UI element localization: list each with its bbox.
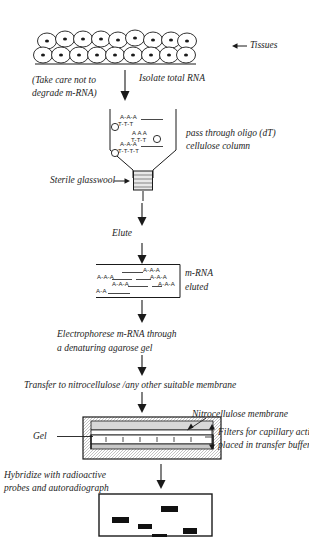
mrna-eluted-line-1: m-RNA (185, 267, 213, 279)
column-strand-2-polya: A A A (132, 130, 147, 136)
electrophorese-line-1: Electrophorese m-RNA through (57, 328, 177, 340)
tissues-label: Tissues (250, 39, 277, 51)
column-strand-3-polya: A-A-A (120, 141, 137, 147)
flow-arrow-6-icon (136, 392, 148, 414)
autoradiograph-band (138, 524, 152, 529)
column-strand-1-oligodt: T-T-T (118, 121, 133, 127)
glasswool-label: Sterile glasswool (50, 174, 115, 186)
hybridize-line-1: Hybridize with radioactive (4, 469, 106, 481)
flow-arrow-7-icon (155, 464, 167, 490)
column-bead-2 (152, 134, 162, 144)
column-label-line-2: cellulose column (186, 140, 250, 152)
column-strand-3-tail (141, 145, 163, 148)
flow-arrow-3-icon (136, 243, 148, 265)
flow-arrow-1-icon (119, 70, 131, 102)
eluted-strand-3: A-A-A (150, 274, 167, 280)
glasswool-plug (132, 170, 154, 192)
elute-label: Elute (112, 227, 132, 239)
column-strand-1-polya: A-A-A (120, 114, 137, 120)
hybridize-line-2: probes and autoradiograph (4, 482, 109, 494)
gel-label: Gel (33, 430, 47, 442)
eluted-strand-2: A-A-A (97, 274, 114, 280)
mrna-eluted-line-2: eluted (185, 281, 208, 293)
column-strand-1-tail (141, 118, 163, 121)
eluted-strand-5: A-A-A (158, 281, 175, 287)
tissues-arrow-icon (232, 41, 248, 51)
eluted-strand-1: A-A-A (143, 267, 160, 273)
autoradiograph-band (152, 534, 167, 537)
eluted-strand-4: A-A-A (112, 281, 129, 287)
electrophorese-line-2: a denaturing agarose gel (57, 342, 152, 354)
column-label-line-1: pass through oligo (dT) (186, 127, 276, 139)
flow-arrow-4-icon (136, 300, 148, 324)
column-strand-3-oligodt: T-T-T-T (118, 148, 139, 154)
column-drip-stem (141, 191, 145, 201)
autoradiograph-band (161, 506, 178, 512)
northern-blot-figure: Tissues (Take care not to degrade m-RNA)… (0, 0, 309, 542)
tissue-cell-cluster (33, 28, 198, 68)
eluted-strand-6: A-A (96, 288, 107, 294)
autoradiograph-panel (98, 493, 213, 537)
isolate-total-rna-label: Isolate total RNA (139, 72, 205, 84)
glasswool-arrow-icon (114, 176, 131, 186)
caution-line-2: degrade m-RNA) (32, 87, 97, 99)
autoradiograph-band (183, 528, 197, 534)
caution-line-1: (Take care not to (32, 74, 96, 86)
transfer-to-membrane-label: Transfer to nitrocellulose /any other su… (24, 379, 236, 391)
autoradiograph-band (112, 517, 129, 523)
flow-arrow-2-icon (136, 203, 148, 227)
filters-line-1: Filters for capillary action (218, 426, 309, 438)
flow-arrow-5-icon (136, 355, 148, 377)
filters-bracket-icon (205, 424, 219, 450)
gel-leader-line (57, 435, 93, 438)
filters-line-2: placed in transfer buffer (218, 439, 309, 451)
nitrocellulose-membrane-label: Nitrocellulose membrane (192, 408, 288, 420)
